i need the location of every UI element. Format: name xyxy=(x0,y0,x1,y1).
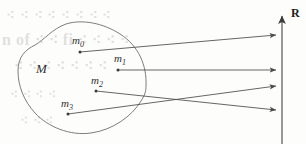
point-label-m2: m2 xyxy=(91,74,103,89)
point-label-m1: m1 xyxy=(114,52,126,67)
point-label-m0-subscript: 0 xyxy=(80,40,84,49)
point-label-m3: m3 xyxy=(61,97,73,112)
set-to-real-line-mapping-diagram: ⁖ ⁖ ⁖ ⁖ ⁖ ⁖ ⁖ ⁖ n of ⁖ ⁖ fi ⁖ ⁖ ⁖ ⁖ ⁖ ⁖ … xyxy=(0,0,306,144)
diagram-canvas: M R m0 m1 m2 m3 xyxy=(0,0,306,144)
point-dot-m0 xyxy=(79,51,82,54)
point-label-m2-base: m xyxy=(91,74,99,86)
point-label-m3-base: m xyxy=(61,97,69,109)
point-label-m1-base: m xyxy=(114,52,122,64)
axis-label-R: R xyxy=(291,6,300,20)
arrow-m2 xyxy=(96,91,276,110)
arrow-m0 xyxy=(80,35,276,52)
set-boundary-M xyxy=(18,22,146,134)
point-label-m0-base: m xyxy=(72,34,80,46)
point-label-m3-subscript: 3 xyxy=(68,103,73,112)
point-label-m0: m0 xyxy=(72,34,84,49)
point-dot-m1 xyxy=(117,69,120,72)
arrow-m3 xyxy=(68,86,276,114)
set-label-M: M xyxy=(35,61,48,76)
point-dot-m3 xyxy=(67,113,70,116)
point-label-m2-subscript: 2 xyxy=(99,80,103,89)
point-dot-m2 xyxy=(95,90,98,93)
point-label-m1-subscript: 1 xyxy=(122,58,126,67)
